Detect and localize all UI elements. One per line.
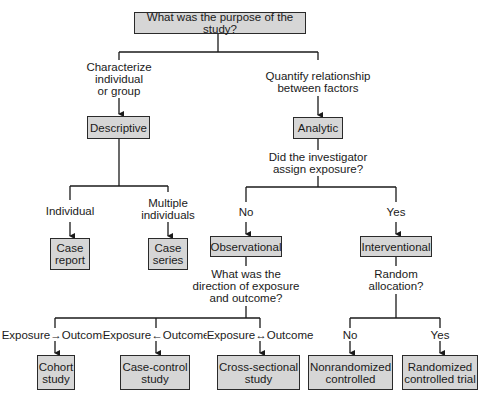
node-randomized-controlled-trial: Randomized controlled trial: [402, 355, 478, 390]
node-case-series: Case series: [148, 238, 188, 270]
edge-label-exposure-outcome-bidirectional: Exposure↔Outcome: [207, 329, 314, 341]
node-observational: Observational: [210, 236, 282, 257]
edge-label-yes-interventional: Yes: [387, 206, 406, 218]
edge-label-no-observational: No: [239, 206, 254, 218]
edge-label-multiple-individuals: Multiple individuals: [141, 197, 195, 221]
edge-label-yes-randomized: Yes: [431, 329, 450, 341]
node-case-report: Case report: [50, 238, 90, 270]
node-interventional: Interventional: [360, 236, 432, 257]
node-cohort-study: Cohort study: [37, 355, 75, 390]
edge-label-outcome-to-exposure: Exposure←Outcome: [103, 329, 210, 341]
edge-label-individual: Individual: [46, 205, 95, 217]
edge-label-exposure-to-outcome: Exposure→Outcome: [2, 329, 109, 341]
node-analytic: Analytic: [293, 117, 343, 139]
node-cross-sectional-study: Cross-sectional study: [217, 355, 300, 390]
node-nonrandomized-controlled: Nonrandomized controlled: [308, 355, 393, 390]
question-random-allocation: Random allocation?: [369, 268, 424, 292]
edge-label-quantify: Quantify relationship between factors: [266, 70, 371, 94]
node-case-control-study: Case-control study: [120, 355, 190, 390]
question-direction: What was the direction of exposure and o…: [193, 268, 300, 304]
node-purpose-question: What was the purpose of the study?: [134, 12, 306, 34]
question-assign-exposure: Did the investigator assign exposure?: [269, 151, 367, 175]
edge-label-characterize: Characterize individual or group: [86, 61, 151, 97]
edge-label-no-randomized: No: [343, 329, 358, 341]
node-descriptive: Descriptive: [87, 116, 150, 139]
